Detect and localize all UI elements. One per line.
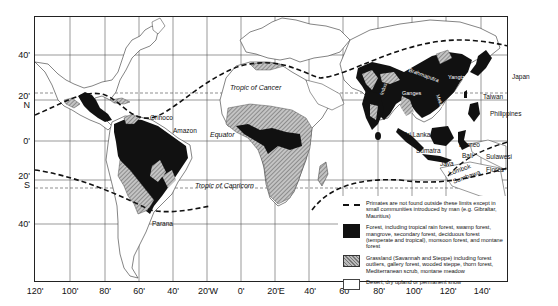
yangtze-label: Yangtze <box>448 74 468 80</box>
lat-label-0: 0' <box>4 137 30 146</box>
bali-label: Bali <box>462 152 473 159</box>
legend-item-forest: Forest, including tropical rain forest, … <box>343 224 505 250</box>
forest-swatch-icon <box>343 224 360 238</box>
lon-label: 100' <box>50 286 90 296</box>
legend-text: Grassland (Savannah and Steppe) includin… <box>366 255 505 274</box>
legend-text: Forest, including tropical rain forest, … <box>366 224 505 250</box>
parana-label: Parana <box>152 220 173 227</box>
lon-label: 0' <box>221 286 261 296</box>
philippines-label: Philippines <box>490 110 521 117</box>
ganges-label: Ganges <box>402 90 421 96</box>
sri-lanka-label: Sri Lanka <box>403 131 430 138</box>
desert-swatch-icon <box>343 279 360 290</box>
grassland-swatch-icon <box>343 255 360 267</box>
lat-label-20s: 20'S <box>4 172 30 190</box>
sulawesi-label: Sulawesi <box>486 153 512 160</box>
lon-label: 40' <box>153 286 193 296</box>
lon-label: 40' <box>290 286 330 296</box>
legend-item-grassland: Grassland (Savannah and Steppe) includin… <box>343 255 505 274</box>
lat-label-20n: 20'N <box>4 92 30 110</box>
equator-label: Equator <box>210 131 235 138</box>
tropic-of-capricorn-label: Tropic of Capricorn <box>195 182 254 189</box>
borneo-label: Borneo <box>459 141 480 148</box>
java-label: Java <box>440 160 454 167</box>
taiwan-label: Taiwan <box>483 93 503 100</box>
legend-item-desert: Desert, dry upland or permanent snow <box>343 279 505 290</box>
amazon-label: Amazon <box>173 127 197 134</box>
sumatra-label: Sumatra <box>416 147 441 154</box>
legend-item-primate-limit: Primates are not found outside these lim… <box>343 200 505 219</box>
orinoco-label: Orinoco <box>150 114 173 121</box>
legend-text: Desert, dry upland or permanent snow <box>366 279 461 285</box>
tropic-of-cancer-label: Tropic of Cancer <box>230 84 281 91</box>
flores-label: Flores <box>486 166 504 173</box>
lon-label: 120' <box>15 286 55 296</box>
legend-text: Primates are not found outside these lim… <box>366 200 505 219</box>
japan-label: Japan <box>512 73 530 80</box>
lat-label-40s: 40' <box>4 220 30 229</box>
dashed-line-icon <box>343 201 360 209</box>
map-legend: Primates are not found outside these lim… <box>343 200 505 295</box>
lat-label-40n: 40' <box>4 51 30 60</box>
